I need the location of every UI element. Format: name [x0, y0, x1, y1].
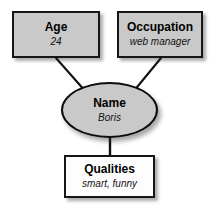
node-name[interactable]: Name Boris [61, 82, 158, 138]
node-qualities-value: smart, funny [82, 179, 137, 190]
node-qualities[interactable]: Qualities smart, funny [64, 155, 155, 198]
node-name-title: Name [93, 97, 126, 110]
node-age-title: Age [45, 21, 68, 34]
node-occupation-value: web manager [130, 37, 191, 48]
node-occupation[interactable]: Occupation web manager [117, 11, 203, 58]
node-age-value: 24 [50, 37, 61, 48]
node-age[interactable]: Age 24 [12, 11, 100, 58]
node-name-value: Boris [98, 113, 121, 124]
diagram-canvas: Age 24 Occupation web manager Name Boris… [0, 0, 211, 215]
node-occupation-title: Occupation [127, 21, 193, 34]
node-qualities-title: Qualities [84, 163, 135, 176]
